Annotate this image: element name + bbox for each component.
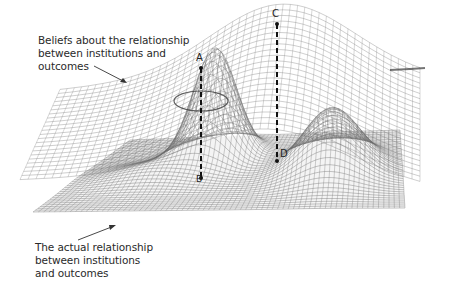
actual-label-line-1: The actual relationship	[35, 241, 153, 253]
actual-label-line-3: and outcomes	[35, 267, 108, 279]
point-d-marker	[275, 159, 279, 163]
beliefs-label: Beliefs about the relationship between i…	[38, 34, 189, 73]
actual-pointer-arrow	[78, 226, 114, 240]
point-c-label: C	[272, 8, 279, 19]
actual-label-line-2: between institutions	[35, 254, 140, 266]
point-d-label: D	[280, 148, 288, 159]
beliefs-arrowhead-icon	[120, 78, 127, 83]
beliefs-label-line-3: outcomes	[38, 60, 89, 72]
point-b-label: B	[196, 174, 202, 184]
point-a-marker	[199, 66, 203, 70]
actual-arrowhead-icon	[109, 225, 116, 230]
actual-label: The actual relationship between institut…	[35, 241, 153, 280]
diagram-canvas: Beliefs about the relationship between i…	[0, 0, 459, 289]
beliefs-label-line-2: between institutions and	[38, 47, 166, 59]
point-c-marker	[275, 22, 279, 26]
beliefs-label-line-1: Beliefs about the relationship	[38, 34, 189, 46]
point-a-label: A	[196, 52, 203, 63]
